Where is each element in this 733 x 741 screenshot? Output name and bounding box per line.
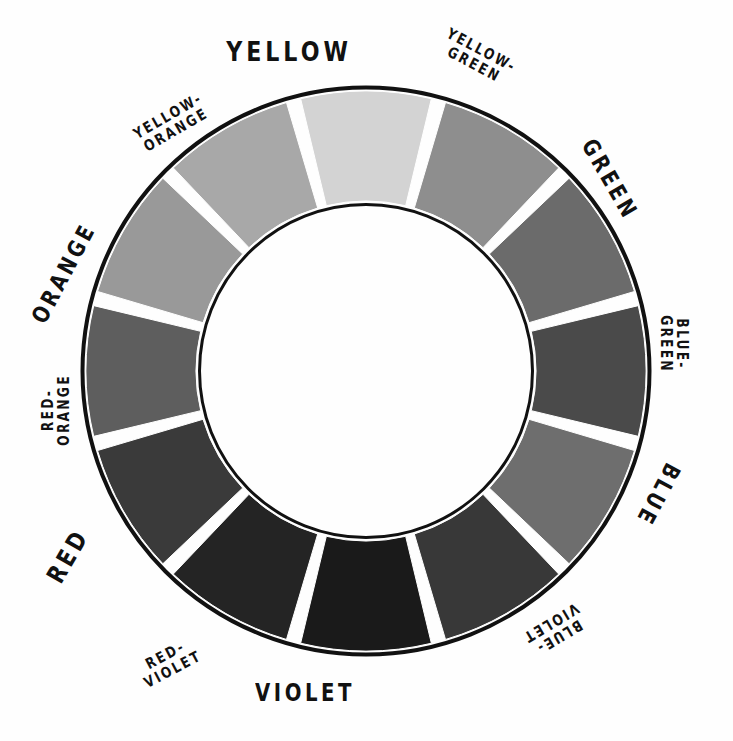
wheel-segment-blue-green[interactable] (531, 306, 646, 437)
label-line: BLUE- (673, 315, 689, 373)
label-yellow: YELLOW (289, 38, 442, 66)
wheel-segment-red-orange[interactable] (86, 306, 201, 437)
color-wheel-svg (0, 0, 733, 741)
label-text-blue-green: BLUE-GREEN (657, 315, 689, 373)
label-line: ORANGE (57, 374, 73, 446)
label-line: VIOLET (255, 681, 355, 706)
wheel-segment-yellow[interactable] (301, 91, 432, 206)
label-violet: VIOLET (305, 681, 427, 706)
label-line: GREEN (657, 315, 673, 373)
label-text-violet: VIOLET (255, 681, 355, 706)
label-text-red-orange: RED-ORANGE (41, 374, 73, 446)
color-wheel-figure: YELLOWYELLOW-GREENGREENBLUE-GREENBLUEBLU… (0, 0, 733, 741)
wheel-segment-violet[interactable] (301, 536, 432, 651)
label-blue-green: BLUE-GREEN (657, 344, 689, 414)
label-red-orange: RED-ORANGE (41, 322, 73, 409)
wheel-inner-outline (200, 205, 533, 538)
